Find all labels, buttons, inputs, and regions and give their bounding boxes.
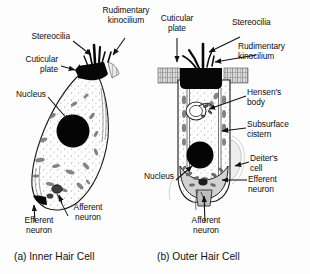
label-stereocilia-b: Stereocilia: [232, 18, 294, 28]
hair-cell-figure: Stereocilia Rudimentary kinocilium Cutic…: [0, 0, 310, 274]
ihc-nucleus-shape: [57, 115, 90, 148]
label-cuticular-plate-b: Cuticular plate: [148, 14, 206, 33]
ihc-kinocilium-shape: [108, 52, 111, 62]
label-nucleus-a: Nucleus: [2, 90, 46, 100]
caption-panel-a: (a) Inner Hair Cell: [14, 251, 94, 262]
ohc-cuticular-plate-shape: [180, 68, 222, 89]
label-efferent-neuron-a: Efferent neuron: [14, 216, 64, 235]
label-efferent-neuron-b: Efferent neuron: [248, 175, 304, 194]
label-rudimentary-kinocilium-b: Rudimentary kinocilium: [238, 42, 310, 61]
label-subsurface-cistern: Subsurface cistern: [247, 120, 309, 139]
label-cuticular-plate-a: Cuticular plate: [2, 55, 58, 74]
outer-hair-cell-illustration: [158, 37, 256, 222]
caption-panel-b: (b) Outer Hair Cell: [157, 251, 240, 262]
ihc-afferent-ending-shape: [52, 185, 62, 193]
label-afferent-neuron-a: Afferent neuron: [62, 203, 114, 222]
ohc-kinocilium-shape: [212, 56, 214, 66]
deiters-cell-shape: [231, 140, 241, 180]
ohc-nucleus-shape: [187, 142, 214, 169]
label-nucleus-b: Nucleus: [126, 172, 174, 182]
label-stereocilia-a: Stereocilia: [8, 32, 70, 42]
ihc-cuticular-plate-shape: [78, 62, 108, 80]
ohc-efferent-ending-shape: [198, 179, 207, 186]
label-deiters-cell: Deiter's cell: [250, 154, 300, 173]
label-afferent-neuron-b: Afferent neuron: [180, 216, 232, 235]
label-hensens-body: Hensen's body: [247, 88, 307, 107]
